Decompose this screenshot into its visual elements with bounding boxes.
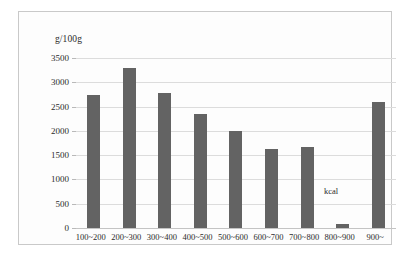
bar[interactable]	[372, 102, 385, 228]
y-axis-tick-mark	[72, 82, 76, 83]
plot-area: 0500100015002000250030003500100~200200~3…	[76, 58, 396, 228]
gridline: 3500	[76, 58, 396, 59]
y-axis-tick-mark	[72, 107, 76, 108]
x-axis-tick-label: 400~500	[177, 232, 217, 242]
y-axis-tick-mark	[72, 204, 76, 205]
x-axis-tick-label: 300~400	[142, 232, 182, 242]
y-axis-tick-label: 500	[56, 199, 70, 209]
bar[interactable]	[158, 93, 171, 228]
y-axis-tick-label: 1500	[51, 150, 69, 160]
bar[interactable]	[123, 68, 136, 228]
bar[interactable]	[336, 224, 349, 228]
x-axis-tick-label: 900~	[355, 232, 395, 242]
y-axis-unit-label: g/100g	[55, 34, 82, 44]
y-axis-tick-mark	[72, 179, 76, 180]
y-axis-tick-label: 1000	[51, 174, 69, 184]
y-axis-tick-label: 3500	[51, 53, 69, 63]
x-axis-tick-label: 500~600	[213, 232, 253, 242]
bar[interactable]	[301, 147, 314, 228]
x-axis-tick-label: 700~800	[284, 232, 324, 242]
y-axis-tick-label: 2500	[51, 102, 69, 112]
x-axis-tick-label: 800~900	[320, 232, 360, 242]
y-axis-tick-mark	[72, 58, 76, 59]
y-axis-tick-label: 3000	[51, 77, 69, 87]
x-axis-tick-label: 600~700	[249, 232, 289, 242]
bar[interactable]	[87, 95, 100, 228]
y-axis-tick-mark	[72, 155, 76, 156]
bar[interactable]	[229, 131, 242, 228]
x-axis-tick-label: 200~300	[106, 232, 146, 242]
bar[interactable]	[265, 149, 278, 228]
y-axis-tick-label: 2000	[51, 126, 69, 136]
x-axis-tick-label: 100~200	[71, 232, 111, 242]
axis-baseline: 0	[76, 228, 396, 229]
chart-frame: g/100g 0500100015002000250030003500100~2…	[18, 11, 392, 245]
y-axis-tick-label: 0	[65, 223, 70, 233]
y-axis-tick-mark	[72, 131, 76, 132]
bar[interactable]	[194, 114, 207, 228]
x-axis-unit-label: kcal	[324, 186, 338, 196]
y-axis-tick-mark	[72, 228, 76, 229]
